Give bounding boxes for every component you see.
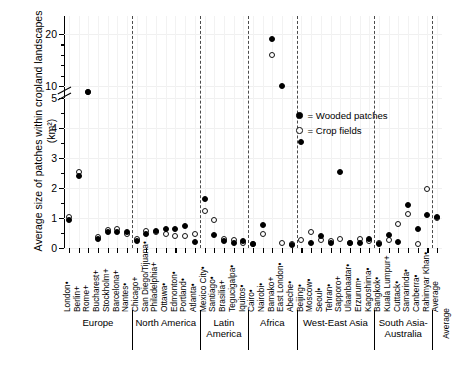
grid-line-v: [234, 16, 235, 248]
data-point-wood: [376, 241, 382, 247]
grid-line-v: [69, 16, 70, 248]
y-tick-label: 1: [51, 212, 57, 224]
data-point-wood: [95, 236, 101, 242]
y-tick-minor: [61, 76, 64, 77]
x-category-label: Tegucigalpa•: [227, 265, 237, 312]
region-divider: [297, 310, 298, 350]
y-tick-label: 4: [51, 122, 57, 134]
data-point-wood: [172, 226, 178, 232]
data-point-crop: [260, 231, 266, 237]
data-point-wood: [328, 240, 334, 246]
data-point-wood: [279, 83, 285, 89]
grid-line-v: [214, 16, 215, 248]
region-divider: [432, 310, 433, 350]
grid-line-v: [117, 16, 118, 248]
data-point-wood: [76, 173, 82, 179]
filled-circle-icon: [296, 112, 303, 119]
y-tick-minor: [61, 55, 64, 56]
data-point-crop: [202, 208, 208, 214]
data-point-wood: [260, 222, 266, 228]
group-separator: [200, 16, 201, 248]
grid-line-v: [175, 16, 176, 248]
legend-item-wooded: = Wooded patches: [296, 108, 388, 123]
data-point-crop: [182, 233, 188, 239]
y-tick: [59, 248, 64, 249]
x-category-label: Philadelphia+: [149, 262, 159, 312]
x-category-label: Abeche•: [285, 281, 295, 312]
grid-line-v: [292, 16, 293, 248]
data-point-wood: [395, 239, 401, 245]
data-point-crop: [279, 240, 285, 246]
x-category-label: Samarinda•: [401, 269, 411, 312]
grid-line-v: [88, 16, 89, 248]
y-tick-minor: [61, 44, 64, 45]
x-axis-category-labels: London•Berlin+Rome+Bucharest+Stockholm+B…: [64, 250, 442, 312]
data-point-wood: [134, 238, 140, 244]
x-category-label: Moscow•: [304, 279, 314, 312]
x-category-label: London•: [62, 281, 72, 312]
data-point-wood: [202, 196, 208, 202]
x-category-label: Stockholm+: [101, 268, 111, 312]
data-point-crop: [337, 236, 343, 242]
region-label: South Asia-Australia: [374, 317, 432, 339]
data-point-wood: [143, 231, 149, 237]
open-circle-icon: [296, 127, 303, 134]
grid-line-v: [224, 16, 225, 248]
region-label: West-East Asia: [297, 317, 375, 328]
data-point-wood: [298, 139, 304, 145]
region-divider: [132, 310, 133, 350]
grid-line-v: [243, 16, 244, 248]
grid-line-v: [137, 16, 138, 248]
y-tick: [59, 158, 64, 159]
region-group-labels: EuropeNorth AmericaLatin AmericaAfricaWe…: [64, 312, 442, 352]
legend-label-crop: = Crop fields: [308, 123, 362, 138]
x-category-label: Sapporo+: [333, 276, 343, 312]
data-point-wood: [153, 228, 159, 234]
x-category-label: Santiago•: [207, 276, 217, 312]
x-category-label: Average: [430, 281, 440, 312]
y-tick-minor: [61, 143, 64, 144]
data-point-wood: [221, 238, 227, 244]
y-tick-label: 3: [51, 152, 57, 164]
grid-line-v: [272, 16, 273, 248]
data-point-crop: [172, 233, 178, 239]
grid-line-v: [185, 16, 186, 248]
x-category-label: Bangkok•: [372, 277, 382, 312]
grid-line-v: [146, 16, 147, 248]
data-point-wood: [231, 240, 237, 246]
grid-line-v: [98, 16, 99, 248]
data-point-wood: [114, 229, 120, 235]
data-point-wood: [318, 233, 324, 239]
region-label: Africa: [248, 317, 296, 328]
data-point-wood: [192, 239, 198, 245]
group-separator: [132, 16, 133, 248]
data-point-wood: [85, 89, 91, 95]
grid-line-v: [195, 16, 196, 248]
data-point-wood: [240, 238, 246, 244]
grid-line-v: [282, 16, 283, 248]
x-category-label: Cairo•: [246, 289, 256, 312]
data-point-wood: [434, 214, 440, 220]
data-point-crop: [192, 231, 198, 237]
grid-line-v: [108, 16, 109, 248]
x-category-label: Kagoshima•: [363, 268, 373, 312]
data-point-wood: [124, 229, 130, 235]
data-point-wood: [405, 202, 411, 208]
data-point-crop: [298, 237, 304, 243]
data-point-wood: [366, 236, 372, 242]
x-category-label: Nairobi•: [256, 283, 266, 312]
group-separator: [432, 16, 433, 248]
x-category-label: Seoul•: [314, 288, 324, 312]
x-category-label: Canberra•: [411, 275, 421, 313]
data-point-crop: [308, 229, 314, 235]
data-point-wood: [424, 212, 430, 218]
grid-line-v: [389, 16, 390, 248]
grid-line-v: [156, 16, 157, 248]
data-point-crop: [415, 241, 421, 247]
data-point-wood: [211, 232, 217, 238]
x-category-label: Iquitos•: [237, 285, 247, 312]
y-tick: [59, 34, 64, 35]
data-point-crop: [211, 217, 217, 223]
data-point-wood: [182, 223, 188, 229]
y-tick-label: 10: [45, 80, 57, 92]
